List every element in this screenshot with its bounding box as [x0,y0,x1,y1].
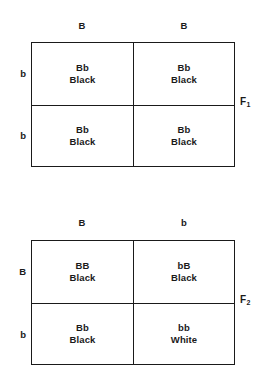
f2-cell-3: bb White [133,303,234,365]
f2-cell-2: Bb Black [32,303,133,365]
f2-cell-0: BB Black [32,241,133,303]
f2-cell-1: bB Black [133,241,234,303]
f2-grid: BB Black bB Black Bb Black bb White [31,240,235,365]
f2-cell-0-genotype: BB [76,260,90,272]
f2-row-header-1: b [0,329,26,340]
f2-row-header-0: B [0,266,26,277]
f2-generation-label: F2 [240,294,250,305]
f2-cell-3-genotype: bb [178,322,190,334]
f2-cell-1-phenotype: Black [171,272,197,284]
f2-generation-letter: F [240,294,246,305]
f2-column-header-1: b [133,217,235,228]
f2-cell-2-genotype: Bb [76,322,89,334]
f2-column-header-0: B [31,217,133,228]
f2-cell-3-phenotype: White [171,334,197,346]
f2-cell-1-genotype: bB [178,260,191,272]
f2-cell-0-phenotype: Black [70,272,96,284]
f2-generation-subscript: 2 [247,299,251,306]
f2-cell-2-phenotype: Black [70,334,96,346]
